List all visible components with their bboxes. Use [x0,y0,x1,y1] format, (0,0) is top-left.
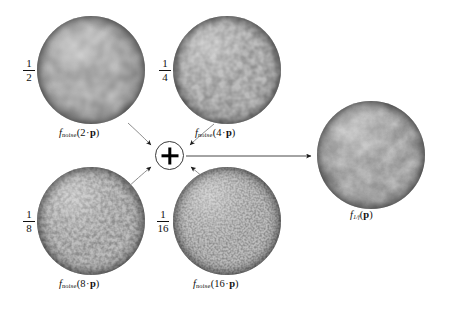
weight-numerator: 1 [18,58,40,70]
sphere-result [317,101,425,209]
caption-octave-4: fnoise(16·p) [193,278,239,289]
sphere-octave-3 [37,167,145,275]
weight-label-octave-2: 1 4 [154,58,176,83]
caption-octave-1: fnoise(2·p) [59,127,99,138]
sphere-rim-octave-4 [173,167,281,275]
sphere-rim-result [317,101,425,209]
caption-scale: 16 [214,278,225,289]
caption-argument: p [363,209,369,220]
caption-argument: p [226,127,232,138]
caption-octave-2: fnoise(4·p) [195,127,235,138]
weight-denominator: 8 [18,222,40,234]
weight-label-octave-3: 1 8 [18,209,40,234]
weight-numerator: 1 [18,209,40,221]
caption-subscript: noise [198,131,213,138]
sphere-octave-1 [37,16,145,124]
plus-icon-horizontal-stroke [161,154,178,157]
caption-subscript: noise [62,282,77,289]
caption-result: f1/f(p) [350,209,373,220]
caption-argument: p [229,278,235,289]
weight-label-octave-1: 1 2 [18,58,40,83]
caption-subscript: noise [196,282,211,289]
sphere-octave-4 [173,167,281,275]
sphere-rim-octave-2 [173,16,281,124]
weight-denominator: 4 [154,71,176,83]
caption-subscript: noise [62,131,77,138]
arrow-octave1-to-plus [128,123,151,145]
sphere-octave-2 [173,16,281,124]
caption-argument: p [90,278,96,289]
caption-argument: p [90,127,96,138]
weight-denominator: 2 [18,71,40,83]
caption-octave-3: fnoise(8·p) [59,278,99,289]
weight-label-octave-4: 1 16 [152,209,174,234]
weight-denominator: 16 [152,222,174,234]
sphere-rim-octave-1 [37,16,145,124]
weight-numerator: 1 [152,209,174,221]
caption-subscript: 1/f [353,213,360,220]
sphere-rim-octave-3 [37,167,145,275]
noise-octaves-figure: 1 2 fnoise(2·p) 1 4 fnoise(4·p) [0,0,453,314]
weight-numerator: 1 [154,58,176,70]
plus-operator-node [155,141,184,170]
